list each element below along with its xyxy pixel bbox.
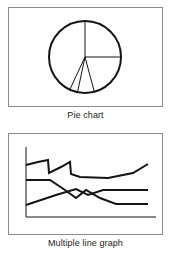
pie-chart-caption: Pie chart bbox=[0, 110, 171, 121]
figure-pie-chart: Pie chart bbox=[0, 0, 171, 128]
line-graph-caption: Multiple line graph bbox=[0, 238, 171, 249]
pie-chart-graphic bbox=[8, 7, 163, 107]
line-graph-axes bbox=[26, 147, 156, 217]
line-graph-graphic bbox=[8, 133, 163, 235]
pie-divider-5 bbox=[70, 57, 85, 90]
figure-multiple-line-graph: Multiple line graph bbox=[0, 128, 171, 257]
line-graph-series-1 bbox=[26, 160, 148, 178]
pie-divider-4 bbox=[78, 57, 85, 92]
pie-divider-3 bbox=[85, 57, 94, 92]
line-graph-series-2 bbox=[26, 180, 148, 204]
figure-sheet: Pie chart Multiple line graph bbox=[0, 0, 171, 257]
